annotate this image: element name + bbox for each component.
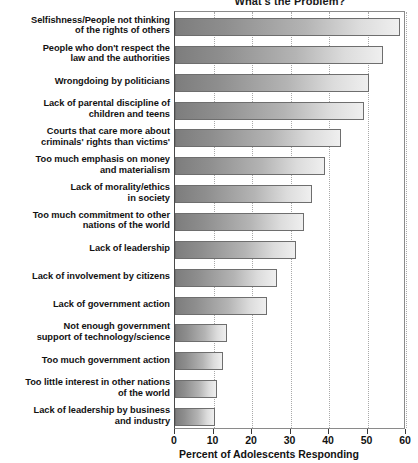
bar-row: [175, 102, 406, 120]
category-label: Lack of involvement by citizens: [2, 271, 170, 282]
bar-row: [175, 46, 406, 64]
bar-row: [175, 157, 406, 175]
category-label-line: support of technology/science: [2, 332, 170, 343]
x-tick-label-0: 0: [154, 434, 194, 446]
chart-title: What's the Problem?: [174, 0, 406, 7]
category-label: Selfishness/People not thinkingof the ri…: [2, 15, 170, 36]
category-label-line: Lack of parental discipline of: [2, 98, 170, 109]
category-label-line: of the rights of others: [2, 25, 170, 36]
bar: [175, 46, 383, 64]
bar-chart: What's the Problem? Selfishness/People n…: [0, 0, 418, 463]
bar-row: [175, 74, 406, 92]
category-label-line: Wrongdoing by politicians: [2, 76, 170, 87]
category-label-line: Lack of government action: [2, 299, 170, 310]
bar: [175, 213, 304, 231]
category-label: Too little interest in other nationsof t…: [2, 377, 170, 398]
bar: [175, 18, 400, 36]
gridline-60: [406, 12, 407, 428]
bar-row: [175, 324, 406, 342]
bar: [175, 269, 277, 287]
category-label: Lack of government action: [2, 299, 170, 310]
category-label-line: Too much emphasis on money: [2, 154, 170, 165]
category-label-line: Lack of involvement by citizens: [2, 271, 170, 282]
category-label-line: law and the authorities: [2, 53, 170, 64]
bar: [175, 241, 296, 259]
bar: [175, 324, 227, 342]
bar-row: [175, 213, 406, 231]
bar: [175, 74, 369, 92]
bar-row: [175, 129, 406, 147]
category-label-line: and materialism: [2, 165, 170, 176]
category-label-line: nations of the world: [2, 220, 170, 231]
category-label-line: Too much government action: [2, 355, 170, 366]
category-label-line: criminals' rights than victims': [2, 137, 170, 148]
category-label: Lack of leadership by businessand indust…: [2, 405, 170, 426]
category-label-line: Too little interest in other nations: [2, 377, 170, 388]
x-axis-title: Percent of Adolescents Responding: [120, 448, 418, 460]
bar: [175, 185, 312, 203]
bar: [175, 380, 217, 398]
bar-row: [175, 18, 406, 36]
category-label-line: Courts that care more about: [2, 126, 170, 137]
x-tick-label-60: 60: [385, 434, 418, 446]
bar: [175, 102, 364, 120]
bar: [175, 408, 215, 426]
category-label: Too much emphasis on moneyand materialis…: [2, 154, 170, 175]
category-label-line: Lack of leadership by business: [2, 405, 170, 416]
x-tick-label-50: 50: [347, 434, 387, 446]
bar: [175, 129, 341, 147]
category-label: Courts that care more aboutcriminals' ri…: [2, 126, 170, 147]
category-label: Wrongdoing by politicians: [2, 76, 170, 87]
bar: [175, 352, 223, 370]
bar-row: [175, 185, 406, 203]
category-label-line: children and teens: [2, 109, 170, 120]
x-tick-label-40: 40: [308, 434, 348, 446]
category-label-line: Lack of morality/ethics: [2, 182, 170, 193]
bar-row: [175, 408, 406, 426]
category-label-line: People who don't respect the: [2, 43, 170, 54]
category-label-line: of the world: [2, 388, 170, 399]
category-label-line: in society: [2, 193, 170, 204]
bar-row: [175, 241, 406, 259]
category-label: Lack of leadership: [2, 243, 170, 254]
bar-row: [175, 380, 406, 398]
category-label-line: Lack of leadership: [2, 243, 170, 254]
bar: [175, 157, 325, 175]
plot-area: [174, 11, 405, 429]
bar-row: [175, 269, 406, 287]
bar: [175, 297, 267, 315]
category-label: Too much government action: [2, 355, 170, 366]
category-label: Lack of parental discipline ofchildren a…: [2, 98, 170, 119]
category-label: Not enough governmentsupport of technolo…: [2, 321, 170, 342]
x-tick-label-30: 30: [270, 434, 310, 446]
category-label-line: Selfishness/People not thinking: [2, 15, 170, 26]
bar-row: [175, 352, 406, 370]
category-label: People who don't respect thelaw and the …: [2, 43, 170, 64]
x-tick-label-20: 20: [231, 434, 271, 446]
category-label: Too much commitment to othernations of t…: [2, 210, 170, 231]
category-label-line: Not enough government: [2, 321, 170, 332]
category-label-line: and industry: [2, 416, 170, 427]
category-label-line: Too much commitment to other: [2, 210, 170, 221]
bar-row: [175, 297, 406, 315]
category-label: Lack of morality/ethicsin society: [2, 182, 170, 203]
x-tick-label-10: 10: [193, 434, 233, 446]
